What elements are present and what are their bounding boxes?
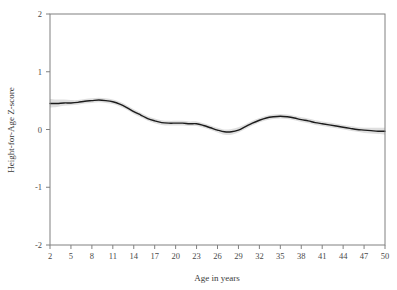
x-tick-label: 11 <box>109 251 117 261</box>
height-for-age-zscore-chart: 2581114172023262932353841444750 210-1-2 … <box>0 0 397 290</box>
x-tick-label: 47 <box>360 251 369 261</box>
x-axis-title: Age in years <box>194 273 240 283</box>
x-tick-label: 38 <box>297 251 306 261</box>
y-tick-label: 2 <box>38 9 42 19</box>
y-tick-label: 1 <box>38 67 42 77</box>
y-axis-ticks: 210-1-2 <box>35 9 50 250</box>
y-axis-title: Height-for-Age Z-score <box>6 87 16 173</box>
x-tick-label: 35 <box>276 251 285 261</box>
x-tick-label: 50 <box>381 251 390 261</box>
x-tick-label: 8 <box>90 251 94 261</box>
x-tick-label: 26 <box>213 251 222 261</box>
x-tick-label: 17 <box>150 251 159 261</box>
x-tick-label: 41 <box>318 251 327 261</box>
x-tick-label: 20 <box>171 251 180 261</box>
x-axis-ticks: 2581114172023262932353841444750 <box>48 245 389 261</box>
x-tick-label: 5 <box>69 251 73 261</box>
x-tick-label: 2 <box>48 251 52 261</box>
y-tick-label: -2 <box>35 240 42 250</box>
x-tick-label: 44 <box>339 251 348 261</box>
x-tick-label: 32 <box>255 251 264 261</box>
x-tick-label: 14 <box>130 251 139 261</box>
x-tick-label: 23 <box>192 251 201 261</box>
x-tick-label: 29 <box>234 251 243 261</box>
figure-container: 2581114172023262932353841444750 210-1-2 … <box>0 0 397 290</box>
y-tick-label: -1 <box>35 182 42 192</box>
y-tick-label: 0 <box>38 125 42 135</box>
